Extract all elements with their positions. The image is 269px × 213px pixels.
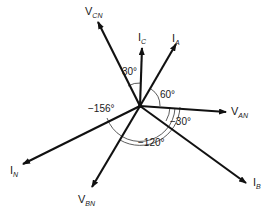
phasor-labels: VAN IA IC VCN IN VBN IB [10,5,261,207]
label-v-cn: VCN [85,5,103,19]
label-i-a: IA [172,32,180,46]
angle-label-neg30: −30° [170,116,191,127]
angle-label-30: 30° [122,66,137,77]
angle-label-neg120: −120° [138,137,165,148]
label-v-an: VAN [231,105,249,119]
angle-label-neg156: −156° [88,103,115,114]
label-v-bn: VBN [78,193,96,207]
vector-v-cn [98,22,140,106]
phasor-vectors [23,22,246,187]
label-i-n: IN [10,164,19,178]
origin-point [138,104,142,108]
label-i-b: IB [253,176,261,190]
vector-i-c [140,48,142,106]
phasor-diagram: VAN IA IC VCN IN VBN IB 30° 60° −30° −15… [0,0,269,213]
vector-v-an [140,106,226,112]
angle-label-60: 60° [160,89,175,100]
label-i-c: IC [138,31,147,45]
arc-60 [151,89,160,106]
